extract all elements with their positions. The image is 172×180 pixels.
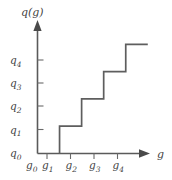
- y-tick-label-q3: q3: [10, 77, 22, 92]
- x-tick-label-g1: g1: [42, 159, 54, 174]
- chart-canvas: q(g) g q4 q3 q2 q1 q0 g0 g1 g2 g3 g4: [0, 0, 172, 180]
- x-axis-title: g: [157, 148, 164, 161]
- x-axis-arrow-icon: [139, 149, 150, 158]
- y-tick-label-q1: q1: [10, 124, 22, 139]
- y-tick-label-q2: q2: [10, 100, 22, 115]
- y-axis-arrow-icon: [33, 20, 41, 31]
- y-tick-label-q4: q4: [10, 54, 22, 69]
- x-tick-label-g0: g0: [26, 159, 38, 174]
- quantizer-staircase-chart: q(g) g q4 q3 q2 q1 q0 g0 g1 g2 g3 g4: [0, 0, 172, 180]
- staircase-curve: [60, 44, 148, 153]
- y-tick-label-q0: q0: [10, 147, 22, 162]
- x-tick-label-g3: g3: [89, 159, 101, 174]
- x-tick-label-g4: g4: [113, 159, 125, 174]
- x-tick-label-g2: g2: [66, 159, 78, 174]
- y-axis-title: q(g): [21, 6, 44, 19]
